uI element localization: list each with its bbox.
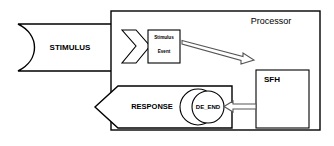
diagram-canvas: STIMULUS Processor Stimulus Event SFH RE…: [0, 0, 334, 146]
response-banner-label: RESPONSE: [131, 102, 173, 111]
diagram-svg: STIMULUS Processor Stimulus Event SFH RE…: [0, 0, 334, 146]
stimulus-event-line2: Event: [158, 49, 171, 54]
sfh-box-label: SFH: [264, 75, 280, 84]
stimulus-event-line1: Stimulus: [154, 35, 174, 40]
processor-box-label: Processor: [251, 16, 292, 26]
de-end-label: DE_END: [196, 104, 221, 110]
stimulus-banner-label: STIMULUS: [50, 43, 92, 52]
